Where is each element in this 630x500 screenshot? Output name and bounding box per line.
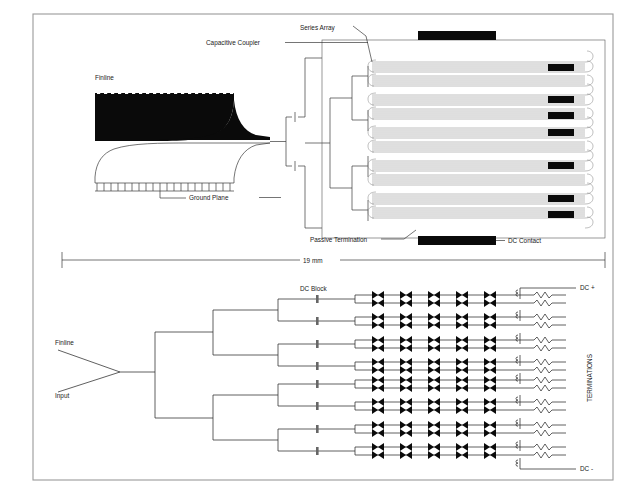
diode-row — [363, 398, 520, 406]
dc-pad — [548, 64, 574, 71]
diode-row — [363, 406, 520, 414]
dc-contact-label: DC Contact — [508, 237, 541, 244]
dc-block-symbols — [316, 295, 319, 455]
diode-row — [363, 336, 520, 344]
figure-canvas: Finline Ground Plane — [0, 0, 630, 500]
diode-row — [363, 376, 520, 384]
finline-antenna — [95, 86, 270, 191]
diode-row — [363, 366, 520, 374]
diode-row — [363, 384, 520, 392]
capacitive-coupler-network — [270, 58, 368, 228]
array-group — [368, 183, 593, 228]
diode-row — [363, 321, 520, 329]
diode-row — [363, 421, 520, 429]
coupler-out-top — [298, 58, 305, 117]
ground-plane-teeth — [95, 183, 234, 191]
diode-rows — [363, 291, 520, 459]
passive-termination-leader — [381, 230, 416, 239]
ground-plane-label: Ground Plane — [189, 194, 229, 201]
top-metal-bar — [418, 31, 496, 40]
dc-pad — [548, 129, 574, 136]
dc-pad — [548, 195, 574, 202]
finline-metal — [95, 93, 234, 141]
capacitive-coupler-label: Capacitive Coupler — [206, 39, 261, 47]
dc-pad — [548, 162, 574, 169]
dc-minus-label: DC - — [580, 465, 593, 472]
dimension-19mm: 19 mm — [62, 252, 605, 268]
dc-pad — [548, 96, 574, 103]
technical-diagram: Finline Ground Plane — [0, 0, 630, 500]
diode-row — [363, 291, 520, 299]
dc-plus-label: DC + — [580, 284, 595, 291]
termination-resistors — [520, 292, 566, 458]
passive-termination-label: Passive Termination — [310, 236, 368, 243]
coupler-out-bottom — [298, 166, 305, 228]
dc-pad — [548, 211, 574, 218]
diode-row — [363, 299, 520, 307]
schematic-input-label: Input — [55, 392, 69, 400]
diode-row — [363, 358, 520, 366]
top-layout-diagram: Finline Ground Plane — [62, 24, 605, 268]
terminations-label: TERMINATIONS — [586, 354, 593, 402]
finline-label: Finline — [95, 74, 114, 81]
bias-inductors — [516, 288, 520, 469]
bottom-circuit-schematic: Finline Input — [55, 284, 595, 472]
dc-contact-pads — [548, 64, 574, 218]
diode-row — [363, 443, 520, 451]
series-array-label: Series Array — [300, 24, 336, 32]
finline-comb-teeth — [97, 86, 233, 94]
series-array-leader — [353, 26, 372, 62]
diode-row — [363, 313, 520, 321]
diode-row — [363, 451, 520, 459]
diode-row — [363, 344, 520, 352]
dc-block-label: DC Block — [300, 285, 327, 292]
ground-plane-leader — [160, 191, 186, 198]
row-splitters — [355, 295, 363, 455]
dc-pad — [548, 112, 574, 119]
bottom-dc-contact-bar — [418, 236, 496, 245]
finline-input-symbol — [58, 350, 155, 392]
ground-plane-outline — [95, 143, 270, 183]
dimension-label: 19 mm — [303, 257, 323, 264]
diode-row — [363, 429, 520, 437]
schematic-finline-label: Finline — [55, 339, 74, 346]
